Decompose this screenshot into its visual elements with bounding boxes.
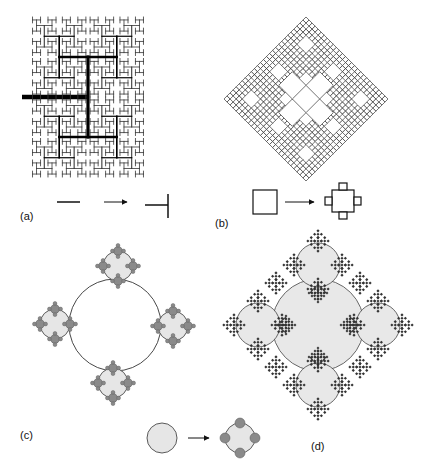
- panel-c-generator: [147, 418, 260, 458]
- panel-label-a: (a): [20, 210, 33, 222]
- panel-b-square-fractal: [224, 17, 388, 181]
- panel-b-generator: [253, 183, 361, 219]
- panel-label-d: (d): [311, 440, 324, 452]
- panel-a-h-tree: [22, 17, 143, 177]
- panel-label-c: (c): [20, 429, 33, 441]
- fractal-figure: [0, 0, 423, 473]
- generator-square: [253, 190, 277, 214]
- generator-circle: [147, 423, 177, 453]
- panel-c-circle-fractal: [32, 243, 195, 405]
- panel-a-generator: [57, 194, 168, 218]
- generator-circle-with-dots: [220, 418, 260, 458]
- generator-cross-square: [325, 183, 361, 219]
- panel-label-b: (b): [215, 217, 228, 229]
- panel-d-combined-fractal: [222, 229, 413, 420]
